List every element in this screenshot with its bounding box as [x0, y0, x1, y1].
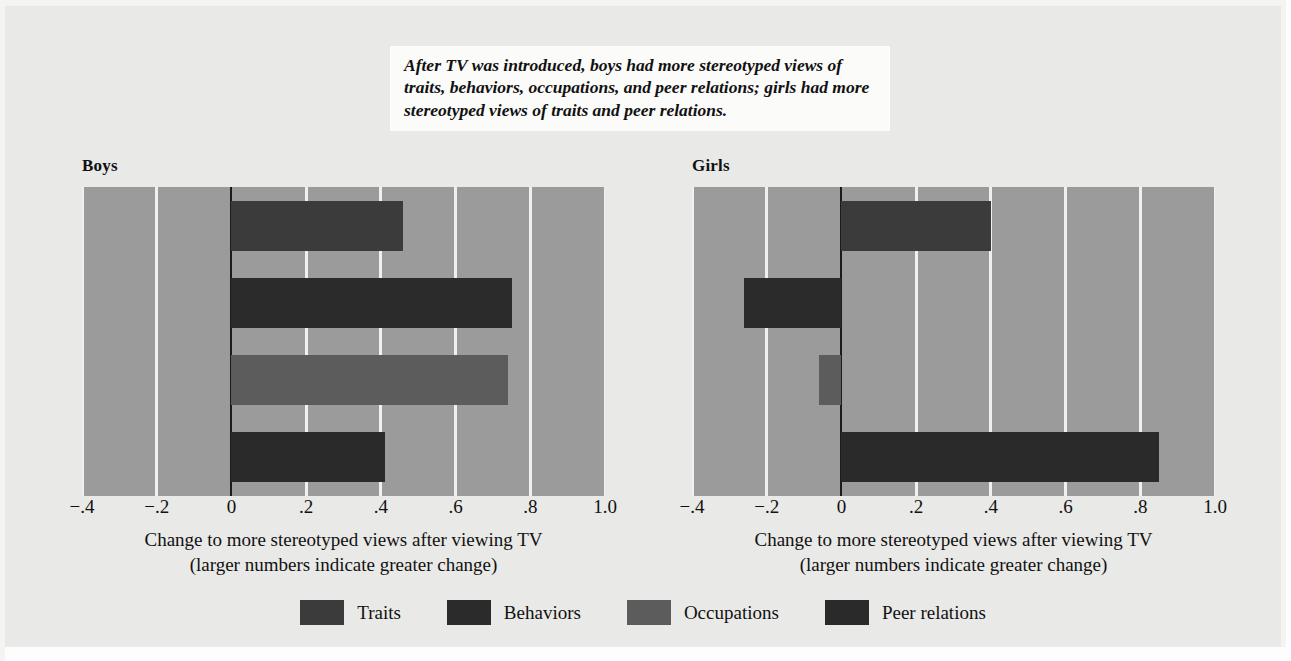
x-axis-label-line1: Change to more stereotyped views after v… [672, 528, 1235, 553]
gridline [692, 187, 694, 496]
x-tick-label: −.2 [144, 496, 169, 518]
x-tick-label: .2 [909, 496, 923, 518]
x-tick-label: 0 [227, 496, 237, 518]
bar-occupations [819, 355, 841, 405]
x-tick-label: .4 [984, 496, 998, 518]
x-tick-label: −.4 [70, 496, 95, 518]
bar-peer-relations [841, 432, 1159, 482]
legend-swatch [825, 600, 869, 625]
x-tick-label: .6 [1058, 496, 1072, 518]
gridline [454, 187, 457, 496]
gridline [529, 187, 532, 496]
bar-traits [231, 201, 403, 251]
x-axis-boys: −.4−.20.2.4.6.81.0 [82, 496, 605, 526]
panel-title-girls: Girls [692, 156, 730, 176]
bar-traits [841, 201, 990, 251]
bar-occupations [231, 355, 507, 405]
x-axis-label-girls: Change to more stereotyped views after v… [672, 528, 1235, 577]
gridline [82, 187, 84, 496]
x-tick-label: −.4 [680, 496, 705, 518]
legend-item-traits: Traits [300, 600, 401, 625]
legend-item-behaviors: Behaviors [447, 600, 581, 625]
bar-behaviors [231, 278, 511, 328]
x-tick-label: .6 [448, 496, 462, 518]
x-tick-label: 1.0 [593, 496, 617, 518]
legend-label: Behaviors [504, 602, 581, 624]
legend-swatch [447, 600, 491, 625]
x-axis-label-line2: (larger numbers indicate greater change) [672, 553, 1235, 578]
x-tick-label: 0 [837, 496, 847, 518]
bar-peer-relations [231, 432, 384, 482]
figure-caption: After TV was introduced, boys had more s… [390, 46, 890, 131]
plot-area-boys [82, 187, 605, 496]
x-tick-label: .8 [1133, 496, 1147, 518]
x-axis-girls: −.4−.20.2.4.6.81.0 [692, 496, 1215, 526]
legend-label: Traits [357, 602, 401, 624]
legend-label: Peer relations [882, 602, 986, 624]
x-tick-label: 1.0 [1203, 496, 1227, 518]
gridline [765, 187, 768, 496]
legend-label: Occupations [684, 602, 779, 624]
x-axis-label-boys: Change to more stereotyped views after v… [62, 528, 625, 577]
legend-item-occupations: Occupations [627, 600, 779, 625]
legend-swatch [300, 600, 344, 625]
figure-bottom-edge [5, 647, 1291, 661]
x-tick-label: −.2 [754, 496, 779, 518]
x-tick-label: .8 [523, 496, 537, 518]
panel-title-boys: Boys [82, 156, 118, 176]
chart-legend: TraitsBehaviorsOccupationsPeer relations [5, 600, 1281, 625]
legend-swatch [627, 600, 671, 625]
bar-behaviors [744, 278, 841, 328]
x-tick-label: .2 [299, 496, 313, 518]
legend-item-peer-relations: Peer relations [825, 600, 986, 625]
gridline [1214, 187, 1216, 496]
gridline [604, 187, 606, 496]
plot-area-girls [692, 187, 1215, 496]
gridline [155, 187, 158, 496]
x-tick-label: .4 [374, 496, 388, 518]
x-axis-label-line1: Change to more stereotyped views after v… [62, 528, 625, 553]
x-axis-label-line2: (larger numbers indicate greater change) [62, 553, 625, 578]
